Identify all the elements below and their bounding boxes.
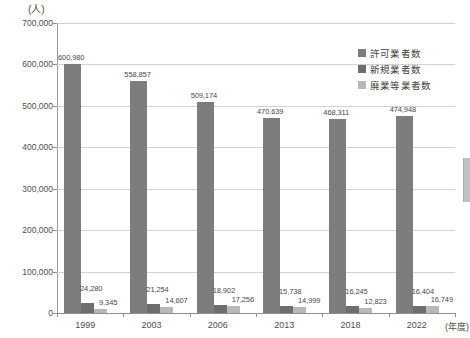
- y-tick-label: 400,000: [1, 142, 53, 152]
- y-tick-label: 500,000: [1, 101, 53, 111]
- bar-new[interactable]: [147, 304, 160, 313]
- x-tick-label: 1999: [75, 320, 95, 330]
- bar-group: 600,98024,2809,345: [57, 23, 123, 313]
- x-tick-mark: [57, 313, 58, 317]
- bar-licensed[interactable]: [197, 102, 214, 313]
- legend-item[interactable]: 新規業者数: [358, 61, 458, 76]
- bar-value-label: 558,857: [124, 70, 150, 79]
- bar-value-label: 24,280: [80, 284, 102, 293]
- bar-group: 470,63915,73814,999: [256, 23, 322, 313]
- x-tick-mark: [455, 313, 456, 317]
- legend-swatch-icon: [358, 49, 366, 57]
- y-tick-label: 200,000: [1, 225, 53, 235]
- bar-licensed[interactable]: [130, 81, 147, 313]
- y-tick-label: 100,000: [1, 267, 53, 277]
- x-tick-label: 2013: [274, 320, 294, 330]
- x-tick-mark: [123, 313, 124, 317]
- bar-closed[interactable]: [227, 306, 240, 313]
- bar-chart: (人) 700,000600,000500,000400,000300,0002…: [0, 0, 470, 338]
- y-tick-label: 0: [1, 308, 53, 318]
- x-axis: (年度) 199920032006201320182022: [57, 313, 455, 338]
- y-tick-label: 300,000: [1, 184, 53, 194]
- bar-value-label: 9,345: [99, 298, 117, 307]
- legend-label: 廃業等業者数: [370, 78, 431, 92]
- bar-licensed[interactable]: [64, 64, 81, 313]
- bar-value-label: 14,999: [298, 296, 320, 305]
- bar-group: 558,85721,25414,607: [123, 23, 189, 313]
- bar-group: 509,17418,90217,256: [190, 23, 256, 313]
- legend-label: 許可業者数: [370, 46, 421, 60]
- x-tick-mark: [256, 313, 257, 317]
- bar-licensed[interactable]: [263, 118, 280, 313]
- y-axis-unit-label: (人): [28, 1, 45, 16]
- bar-new[interactable]: [81, 303, 94, 313]
- legend-swatch-icon: [358, 65, 366, 73]
- x-tick-label: 2022: [407, 320, 427, 330]
- bar-value-label: 474,948: [390, 105, 416, 114]
- bar-value-label: 470,639: [257, 107, 283, 116]
- bar-new[interactable]: [413, 306, 426, 313]
- legend-item[interactable]: 廃業等業者数: [358, 77, 458, 92]
- side-scroll-tab[interactable]: [463, 158, 470, 202]
- bar-value-label: 14,607: [165, 296, 187, 305]
- bar-value-label: 17,256: [232, 295, 254, 304]
- x-tick-mark: [190, 313, 191, 317]
- bar-value-label: 21,254: [146, 285, 168, 294]
- bar-licensed[interactable]: [329, 119, 346, 313]
- bar-value-label: 509,174: [191, 91, 217, 100]
- bar-licensed[interactable]: [396, 116, 413, 313]
- bar-closed[interactable]: [426, 306, 439, 313]
- y-tick-label: 600,000: [1, 59, 53, 69]
- x-tick-mark: [322, 313, 323, 317]
- bar-value-label: 16,749: [431, 295, 453, 304]
- bar-value-label: 18,902: [213, 286, 235, 295]
- chart-legend: 許可業者数新規業者数廃業等業者数: [358, 45, 458, 93]
- y-tick-label: 700,000: [1, 18, 53, 28]
- x-tick-label: 2006: [208, 320, 228, 330]
- x-axis-unit-label: (年度): [445, 320, 469, 333]
- x-tick-label: 2003: [141, 320, 161, 330]
- x-tick-label: 2018: [340, 320, 360, 330]
- bar-value-label: 12,823: [364, 297, 386, 306]
- y-axis-tick-group: 700,000600,000500,000400,000300,000200,0…: [0, 23, 53, 313]
- bar-value-label: 600,980: [58, 53, 84, 62]
- bar-value-label: 16,245: [345, 287, 367, 296]
- bar-new[interactable]: [214, 305, 227, 313]
- legend-item[interactable]: 許可業者数: [358, 45, 458, 60]
- legend-label: 新規業者数: [370, 62, 421, 76]
- bar-new[interactable]: [346, 306, 359, 313]
- legend-swatch-icon: [358, 81, 366, 89]
- x-tick-mark: [389, 313, 390, 317]
- bar-value-label: 468,311: [323, 108, 349, 117]
